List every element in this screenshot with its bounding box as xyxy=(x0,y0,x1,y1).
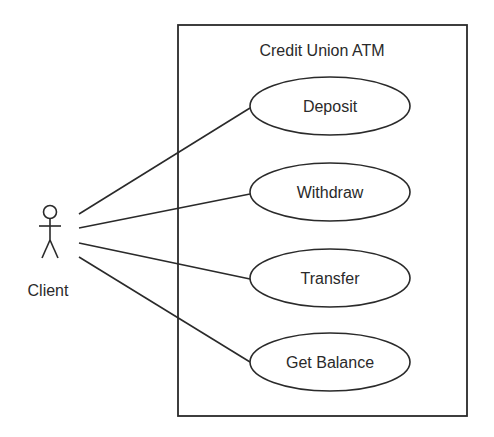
use-case-get-balance[interactable]: Get Balance xyxy=(250,333,410,391)
use-case-withdraw[interactable]: Withdraw xyxy=(250,163,410,221)
use-case-deposit[interactable]: Deposit xyxy=(250,77,410,135)
actor-head-icon xyxy=(44,206,57,219)
association-get-balance xyxy=(79,257,250,362)
system-title: Credit Union ATM xyxy=(259,42,384,59)
association-deposit xyxy=(79,108,250,214)
actor-client[interactable] xyxy=(39,206,61,259)
actor-left-leg-icon xyxy=(42,240,50,258)
actor-label: Client xyxy=(28,282,69,299)
use-case-label: Transfer xyxy=(301,270,361,287)
use-case-label: Withdraw xyxy=(297,184,364,201)
use-case-label: Get Balance xyxy=(286,354,374,371)
use-case-label: Deposit xyxy=(303,98,358,115)
use-case-diagram: Credit Union ATM Client Deposit Withdraw… xyxy=(0,0,494,437)
use-case-transfer[interactable]: Transfer xyxy=(250,249,410,307)
actor-right-leg-icon xyxy=(50,240,58,258)
association-withdraw xyxy=(79,194,250,228)
